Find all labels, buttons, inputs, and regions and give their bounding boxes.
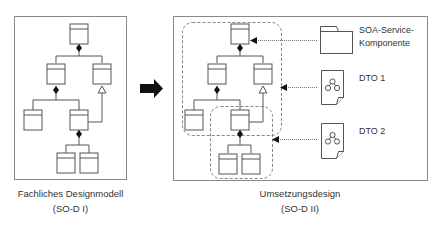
uml-class-box [70,110,88,130]
document-icon [322,71,344,105]
uml-class-box [57,153,75,173]
legend-label-line: SOA-Service- [359,24,414,37]
uml-class-box [231,110,249,130]
caption-title: Umsetzungsdesign [240,186,360,201]
legend-label-line: DTO 1 [359,72,385,85]
uml-class-box [254,64,272,84]
uml-class-box [185,110,203,130]
uml-class-box [93,64,111,84]
uml-class-box [47,64,65,84]
legend-label-dto2: DTO 2 [359,125,385,138]
right-panel-caption: Umsetzungsdesign (SO-D II) [240,186,360,216]
left-panel-caption: Fachliches Designmodell (SO-D I) [0,186,141,216]
uml-class-box [242,154,260,174]
uml-class-box [80,153,98,173]
document-icon [322,124,344,159]
caption-subtitle: (SO-D II) [240,201,360,216]
right-arrow-icon [140,79,163,98]
legend-label-service-component: SOA-Service- Komponente [359,24,414,50]
uml-class-box [70,24,88,44]
legend-label-line: Komponente [359,37,414,50]
legend-label-dto1: DTO 1 [359,72,385,85]
caption-title: Fachliches Designmodell [0,186,141,201]
uml-class-box [208,64,226,84]
legend-label-line: DTO 2 [359,125,385,138]
uml-class-box [24,110,42,130]
uml-class-box [231,24,249,44]
caption-subtitle: (SO-D I) [0,201,141,216]
left-panel [15,17,127,180]
uml-class-box [219,154,237,174]
